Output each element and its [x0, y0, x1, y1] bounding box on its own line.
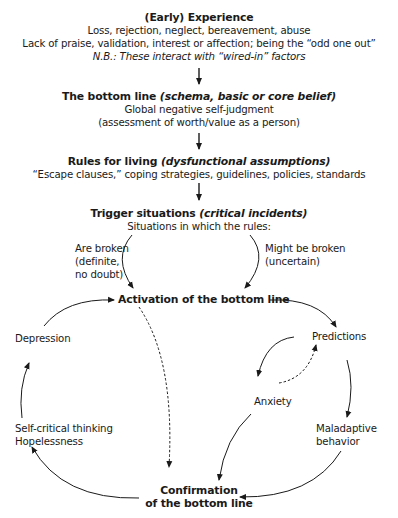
- arrow-predictions-to-maladaptive: [347, 360, 351, 417]
- arrow-activation-to-predictions: [270, 300, 336, 327]
- arrow-are-broken: [122, 235, 133, 288]
- arrow-depression-to-activation: [44, 300, 114, 326]
- arrow-anxiety-to-confirmation: [219, 414, 251, 480]
- arrow-self-critical-to-depression: [21, 363, 29, 418]
- arrow-activation-to-confirmation-dashed: [139, 307, 170, 467]
- arrow-confirmation-to-self-critical: [32, 447, 139, 498]
- arrow-anxiety-to-predictions: [279, 345, 316, 383]
- arrows-layer: [0, 0, 398, 518]
- arrow-maladaptive-to-confirmation: [240, 451, 341, 497]
- arrow-might-be-broken: [245, 235, 259, 288]
- arrow-predictions-to-anxiety: [258, 337, 294, 376]
